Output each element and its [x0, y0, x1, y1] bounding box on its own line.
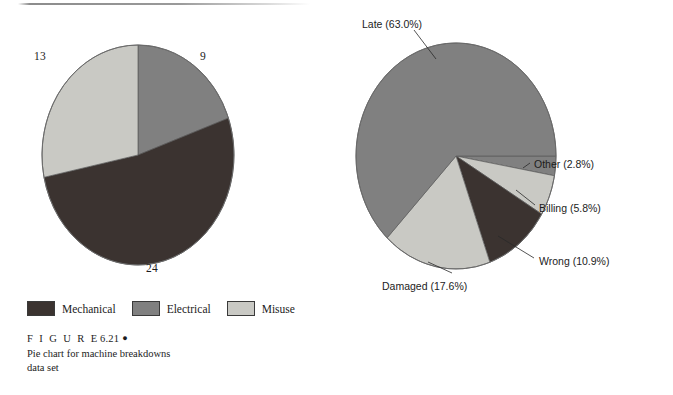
legend-machine-breakdowns: Mechanical Electrical Misuse — [27, 301, 311, 316]
pie-slice-misuse — [42, 45, 138, 177]
pie-chart-machine-breakdowns-svg — [0, 0, 336, 300]
pie-callout-label-other: Other (2.8%) — [534, 158, 594, 170]
pie-chart-customer-complaints-svg — [336, 0, 673, 300]
figure-6-21-caption-line-2: data set — [27, 361, 287, 376]
legend-swatch-mechanical — [27, 301, 55, 316]
legend-label-misuse: Misuse — [262, 303, 295, 315]
pie-slice-value-electrical: 9 — [200, 50, 206, 62]
figure-number: 6.21 — [100, 333, 119, 344]
figure-6-21-caption-head: F I G U R E6.21● — [27, 331, 287, 347]
legend-swatch-electrical — [132, 301, 160, 316]
pie-callout-label-late: Late (63.0%) — [362, 18, 422, 30]
figure-6-22-panel: Other (2.8%) Billing (5.8%) Wrong (10.9%… — [336, 0, 673, 395]
pie-callout-label-damaged: Damaged (17.6%) — [382, 280, 467, 292]
figure-word-label: F I G U R E — [27, 333, 99, 344]
pie-slice-value-mechanical: 24 — [146, 262, 158, 274]
pie-chart-customer-complaints: Other (2.8%) Billing (5.8%) Wrong (10.9%… — [336, 0, 673, 300]
legend-label-electrical: Electrical — [167, 303, 211, 315]
legend-swatch-misuse — [227, 301, 255, 316]
legend-item-electrical: Electrical — [132, 301, 211, 316]
pie-chart-machine-breakdowns: 9 24 13 — [0, 0, 336, 300]
legend-item-misuse: Misuse — [227, 301, 295, 316]
figure-bullet-icon: ● — [122, 333, 127, 343]
pie-callout-label-wrong: Wrong (10.9%) — [539, 255, 609, 267]
figure-6-21-panel: 9 24 13 Mechanical Electrical Misuse F I… — [0, 0, 336, 395]
figure-6-21-caption: F I G U R E6.21● Pie chart for machine b… — [27, 331, 287, 376]
pie-slice-value-misuse: 13 — [34, 50, 46, 62]
legend-item-mechanical: Mechanical — [27, 301, 116, 316]
figure-6-21-caption-line-1: Pie chart for machine breakdowns — [27, 347, 287, 362]
legend-label-mechanical: Mechanical — [62, 303, 116, 315]
pie-callout-label-billing: Billing (5.8%) — [539, 202, 601, 214]
